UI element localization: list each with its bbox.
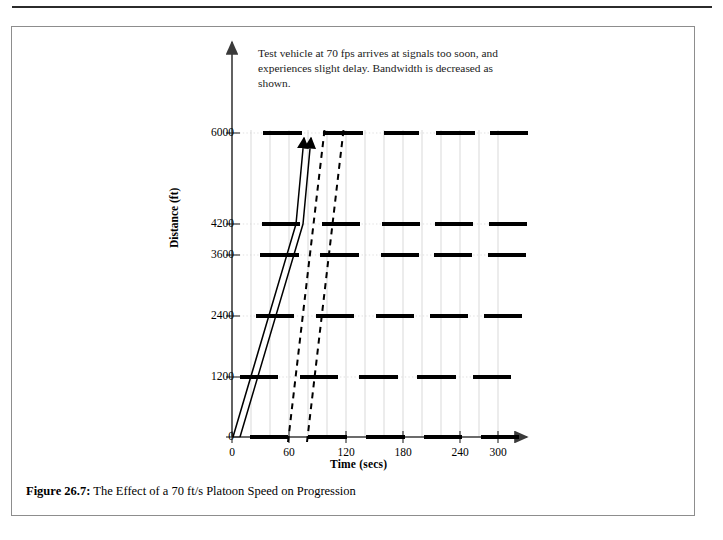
y-axis-title: Distance (ft) [168, 188, 180, 248]
figure-caption: Figure 26.7: The Effect of a 70 ft/s Pla… [26, 484, 626, 500]
chart-annotation: Test vehicle at 70 fps arrives at signal… [258, 46, 510, 91]
y-tick-label-1200: 1200 [192, 370, 234, 382]
x-tick-label-240: 240 [440, 446, 480, 458]
figure-caption-label: Figure 26.7: [26, 484, 90, 498]
figure-border-box [11, 26, 695, 516]
x-tick-label-120: 120 [326, 446, 366, 458]
y-tick-label-0: 0 [192, 430, 234, 442]
y-tick-label-4200: 4200 [192, 217, 234, 229]
x-tick-label-60: 60 [269, 446, 309, 458]
x-tick-label-0: 0 [212, 446, 252, 458]
x-tick-label-180: 180 [383, 446, 423, 458]
y-tick-label-2400: 2400 [192, 309, 234, 321]
y-tick-label-6000: 6000 [192, 126, 234, 138]
figure-caption-text: The Effect of a 70 ft/s Platoon Speed on… [93, 484, 356, 498]
x-axis-title: Time (secs) [330, 458, 387, 470]
top-horizontal-rule [12, 6, 712, 8]
figure-page: 6000 4200 3600 2400 1200 0 0 60 120 180 … [0, 0, 723, 540]
x-tick-label-300: 300 [478, 446, 518, 458]
y-tick-label-3600: 3600 [192, 248, 234, 260]
